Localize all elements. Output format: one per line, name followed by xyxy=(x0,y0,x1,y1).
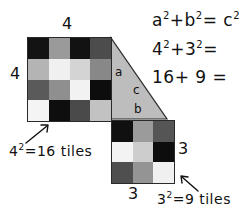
equation-2-plus-three: +3 xyxy=(170,39,196,59)
square-4x4-tile-r2c2 xyxy=(49,59,70,80)
square-4x4-grid xyxy=(27,37,112,122)
square-3x3-tile-r3c2 xyxy=(133,162,154,183)
equation-2-four: 4 xyxy=(152,39,163,59)
label-top-side-4: 4 xyxy=(62,16,73,32)
square-4x4-tile-r3c1 xyxy=(28,80,49,101)
square-4x4-tile-r1c1 xyxy=(28,38,49,59)
arrow-to-3x3-square xyxy=(181,176,198,191)
equation-line-2: 42+32= xyxy=(152,41,218,58)
note-left-rest: =16 tiles xyxy=(25,143,93,159)
equation-1-plus-b: +b xyxy=(170,10,196,30)
equation-line-3: 16+ 9 = xyxy=(152,69,227,86)
label-left-side-4: 4 xyxy=(10,66,21,82)
note-right-base: 3 xyxy=(157,191,166,207)
label-bottom-side-3: 3 xyxy=(128,186,139,202)
label-leg-a: a xyxy=(115,66,123,78)
square-4x4-tile-r3c2 xyxy=(49,80,70,101)
note-right-rest: =9 tiles xyxy=(173,191,231,207)
square-3x3-tile-r2c2 xyxy=(133,142,154,163)
square-4x4-tile-r3c3 xyxy=(70,80,91,101)
equation-line-1: a2+b2= c2 xyxy=(152,12,240,29)
square-3x3-tile-r1c2 xyxy=(133,121,154,142)
equation-1-a: a xyxy=(152,10,163,30)
square-3x3-grid xyxy=(111,120,175,184)
square-4x4-tile-r1c4 xyxy=(90,38,111,59)
equation-2-equals: = xyxy=(203,39,218,59)
square-4x4-tile-r3c4 xyxy=(90,80,111,101)
note-left-base: 4 xyxy=(9,143,18,159)
square-4x4-tile-r1c2 xyxy=(49,38,70,59)
note-3-squared-tiles: 32=9 tiles xyxy=(157,192,231,206)
arrow-to-4x4-square xyxy=(26,125,48,143)
square-4x4-tile-r4c1 xyxy=(28,100,49,121)
square-4x4-tile-r4c2 xyxy=(49,100,70,121)
equation-1-exp-b: 2 xyxy=(196,10,203,21)
square-3x3-tile-r3c1 xyxy=(112,162,133,183)
label-leg-b: b xyxy=(134,103,142,115)
square-4x4-tile-r2c3 xyxy=(70,59,91,80)
square-3x3-tile-r3c3 xyxy=(153,162,174,183)
square-4x4-tile-r2c1 xyxy=(28,59,49,80)
square-3x3-tile-r1c3 xyxy=(153,121,174,142)
square-3x3-tile-r2c3 xyxy=(153,142,174,163)
equation-1-exp-a: 2 xyxy=(163,10,170,21)
pythagorean-tile-figure: 4 4 3 3 a c b a2+b2= c2 42+32= 16+ 9 = 4… xyxy=(0,0,251,213)
square-3x3-tile-r1c1 xyxy=(112,121,133,142)
square-4x4-tile-r4c3 xyxy=(70,100,91,121)
equation-1-eq-c: = c xyxy=(203,10,234,30)
note-4-squared-tiles: 42=16 tiles xyxy=(9,144,92,158)
square-4x4-tile-r1c3 xyxy=(70,38,91,59)
square-3x3-tile-r2c1 xyxy=(112,142,133,163)
label-hypotenuse-c: c xyxy=(133,84,140,96)
equation-1-exp-c: 2 xyxy=(233,10,240,21)
square-4x4-tile-r4c4 xyxy=(90,100,111,121)
label-right-side-3: 3 xyxy=(178,141,189,157)
square-4x4-tile-r2c4 xyxy=(90,59,111,80)
